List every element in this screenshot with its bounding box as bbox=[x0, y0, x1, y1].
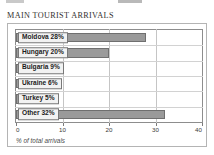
screenshot-root: MAIN TOURIST ARRIVALS Moldova 28%Hungary… bbox=[0, 0, 214, 155]
bar-label-bulgaria: Bulgaria 9% bbox=[18, 63, 64, 75]
bar-row: Other 32% bbox=[16, 110, 202, 120]
bar-label-other: Other 32% bbox=[18, 109, 59, 121]
bar-row: Hungary 20% bbox=[16, 48, 202, 58]
plot-area: Moldova 28%Hungary 20%Bulgaria 9%Ukraine… bbox=[15, 29, 203, 123]
x-tick-label-40: 40 bbox=[195, 126, 202, 133]
x-tick-label-20: 20 bbox=[106, 126, 113, 133]
x-tick-label-0: 0 bbox=[16, 126, 19, 133]
scan-artifact-left bbox=[6, 0, 24, 3]
scan-artifact-right bbox=[118, 0, 142, 3]
bar-label-hungary: Hungary 20% bbox=[18, 47, 68, 59]
x-axis-title: % of total arrivals bbox=[16, 137, 65, 144]
bar-row: Turkey 5% bbox=[16, 94, 202, 104]
bar-series: Moldova 28%Hungary 20%Bulgaria 9%Ukraine… bbox=[16, 30, 202, 122]
chart-card: Moldova 28%Hungary 20%Bulgaria 9%Ukraine… bbox=[7, 23, 207, 147]
x-tick-label-30: 30 bbox=[152, 126, 159, 133]
x-tick-40 bbox=[202, 123, 203, 126]
bar-row: Bulgaria 9% bbox=[16, 64, 202, 74]
bar-label-ukraine: Ukraine 6% bbox=[18, 78, 62, 90]
bar-label-turkey: Turkey 5% bbox=[18, 93, 59, 105]
page-title: MAIN TOURIST ARRIVALS bbox=[7, 11, 114, 20]
bar-label-moldova: Moldova 28% bbox=[18, 32, 68, 44]
bar-row: Ukraine 6% bbox=[16, 79, 202, 89]
bar-row: Moldova 28% bbox=[16, 33, 202, 43]
x-tick-label-10: 10 bbox=[59, 126, 66, 133]
